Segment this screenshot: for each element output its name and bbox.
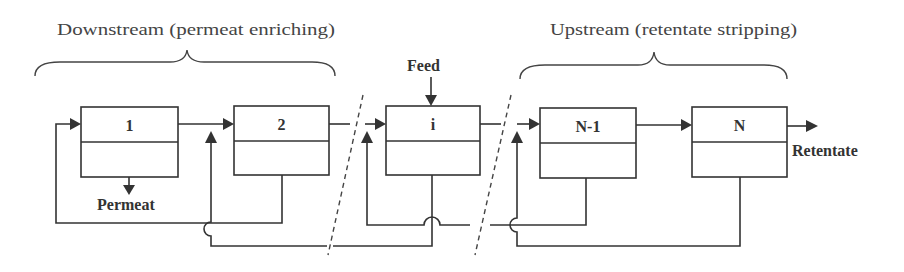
stage-2-label: 2 <box>278 116 286 133</box>
flow-i-to-n-1 <box>480 118 540 130</box>
stage-n-1-label: N-1 <box>576 118 601 135</box>
stage-i-label: i <box>431 116 436 133</box>
stage-1-label: 1 <box>126 117 134 134</box>
stage-n-box: N <box>692 107 787 177</box>
stage-i-box: i <box>386 106 480 175</box>
stage-1-box: 1 <box>81 107 178 177</box>
flow-1-to-2 <box>178 118 234 130</box>
retentate-arrow <box>787 120 818 132</box>
permeat-label: Permeat <box>97 196 155 213</box>
flow-n-1-to-n <box>636 119 692 131</box>
upstream-brace <box>520 52 787 79</box>
downstream-brace <box>35 50 335 76</box>
feed-label: Feed <box>407 57 440 74</box>
upstream-section-label: Upstream (retentate stripping) <box>550 20 797 39</box>
stage-n-label: N <box>734 117 746 134</box>
stage-2-box: 2 <box>234 106 329 175</box>
stage-n-1-box: N-1 <box>540 108 636 178</box>
feed-arrow <box>425 77 437 106</box>
cascade-diagram: Downstream (permeat enriching) Upstream … <box>0 0 904 272</box>
downstream-section-label: Downstream (permeat enriching) <box>57 20 335 39</box>
break-line-left <box>328 95 363 255</box>
permeat-arrow <box>123 177 135 195</box>
retentate-label: Retentate <box>792 142 858 159</box>
flow-2-to-i <box>329 118 386 130</box>
